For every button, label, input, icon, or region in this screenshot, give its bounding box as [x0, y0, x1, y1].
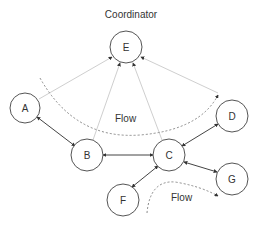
flow-label-upper: Flow — [115, 113, 136, 124]
edge-d-e — [141, 57, 218, 93]
edge-b-e — [93, 63, 120, 140]
node-g[interactable]: G — [216, 163, 248, 195]
edge-a-b — [37, 117, 75, 146]
node-b-label: B — [84, 150, 91, 161]
edge-c-e — [133, 63, 162, 140]
node-f[interactable]: F — [107, 184, 139, 216]
edge-c-g — [184, 162, 217, 172]
node-e-label: E — [123, 42, 130, 53]
node-e[interactable]: E — [110, 31, 142, 63]
edge-f-c — [132, 166, 158, 187]
peer-edges — [37, 117, 218, 187]
node-a-label: A — [22, 103, 29, 114]
flow-arc-upper — [40, 78, 218, 135]
node-c[interactable]: C — [153, 139, 185, 171]
node-g-label: G — [228, 174, 236, 185]
node-f-label: F — [120, 195, 126, 206]
edge-c-d — [182, 124, 218, 146]
node-d-label: D — [228, 111, 235, 122]
coordinator-edges — [39, 57, 218, 140]
node-d[interactable]: D — [216, 100, 248, 132]
node-c-label: C — [165, 150, 172, 161]
node-a[interactable]: A — [10, 93, 40, 123]
node-b[interactable]: B — [71, 139, 103, 171]
flow-label-lower: Flow — [171, 192, 192, 203]
